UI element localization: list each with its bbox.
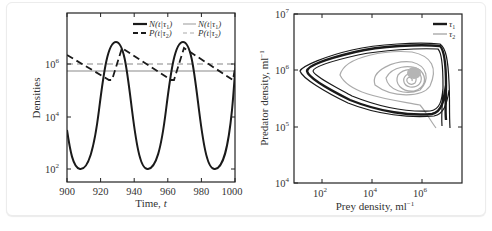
legend-label-p-tau2-gray: P(t|τ2) [197,28,221,39]
y-tick-1e6: 106 [275,63,290,76]
right-y-tick-labels: 107 106 105 104 [275,7,290,189]
right-axes-box [294,14,462,183]
x-tick-1e6: 106 [413,186,428,199]
x-tick-900: 900 [59,186,75,197]
left-x-ticks [67,13,235,182]
left-x-axis-label: Time, t [135,197,167,209]
y-tick-1e4: 104 [45,110,60,123]
y-tick-1e6: 106 [45,57,60,70]
legend-label-p-tau2: P(t|τ2) [148,28,172,39]
left-x-tick-labels: 900 920 940 960 980 1000 [59,186,242,197]
equilibrium-spot [407,67,421,79]
x-tick-960: 960 [160,186,176,197]
y-tick-1e5: 105 [275,120,290,133]
right-legend: τ1 τ2 [433,19,455,40]
left-plot-area [67,42,236,169]
right-x-ticks [322,14,422,183]
left-chart: 900 920 940 960 980 1000 106 104 102 Tim… [30,13,243,209]
y-tick-1e7: 107 [275,7,290,20]
right-x-tick-labels: 102 104 106 [313,186,428,199]
left-y-axis-label: Densities [30,78,42,119]
y-tick-1e2: 102 [45,162,60,175]
right-y-ticks [294,14,462,183]
x-tick-1e2: 102 [313,186,328,199]
right-x-axis-label: Prey density, ml−1 [336,200,415,212]
left-y-tick-labels: 106 104 102 [45,57,60,175]
legend-label-tau2: τ2 [449,29,455,40]
x-tick-1e4: 104 [363,186,378,199]
series-n-tau1 [67,42,236,169]
x-tick-1000: 1000 [222,186,243,197]
right-plot-area [300,43,450,128]
y-tick-1e4: 104 [275,176,290,189]
figure-canvas: 900 920 940 960 980 1000 106 104 102 Tim… [0,0,492,231]
left-axes-box [67,13,235,182]
left-legend: N(t|τ1) N(t|τ1) P(t|τ2) P(t|τ2) [133,19,221,39]
x-tick-920: 920 [93,186,109,197]
x-tick-940: 940 [126,186,142,197]
x-tick-980: 980 [194,186,210,197]
right-y-axis-label: Predator density, ml−1 [258,50,270,146]
right-chart: 107 106 105 104 102 104 106 Prey density… [258,7,462,212]
left-y-ticks [67,64,235,169]
